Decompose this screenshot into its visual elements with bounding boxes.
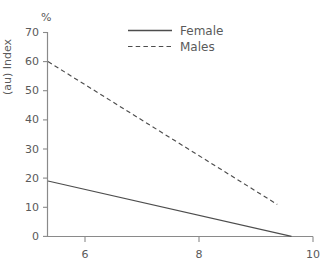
x-tick-label-6: 6 [70,249,100,260]
x-tick-label-8: 8 [184,249,214,260]
plot-area [0,0,330,268]
y-axis-title: (au) Index [2,5,13,95]
y-tick-label-30: 30 [8,144,39,155]
y-tick-label-70: 70 [8,27,39,38]
y-tick-label-0: 0 [8,231,39,242]
y-tick-label-40: 40 [8,114,39,125]
series-line-female [48,181,292,236]
y-tick-label-60: 60 [8,56,39,67]
y-tick-label-10: 10 [8,202,39,213]
y-axis-unit-label: % [41,12,51,23]
y-tick-marks [43,33,48,237]
legend-label-males: Males [180,41,215,53]
legend-label-female: Female [180,25,223,37]
x-tick-label-10: 10 [298,249,328,260]
x-tick-marks [85,237,313,243]
series-line-males [48,62,277,205]
y-tick-label-20: 20 [8,173,39,184]
y-tick-label-50: 50 [8,85,39,96]
chart-figure: % (au) Index 70 60 50 40 30 20 10 0 6 8 … [0,0,330,268]
